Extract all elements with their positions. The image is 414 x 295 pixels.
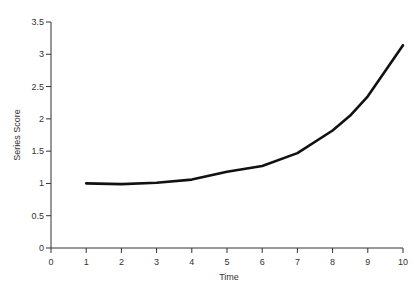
series-line [86, 45, 403, 184]
x-axis-title: Time [219, 272, 239, 282]
y-axis-title: Series Score [12, 109, 22, 161]
x-tick-label: 0 [48, 257, 53, 267]
x-tick-label: 7 [295, 257, 300, 267]
y-tick-label: 1.5 [31, 146, 44, 156]
y-tick-label: 3 [39, 49, 44, 59]
x-tick-label: 4 [189, 257, 194, 267]
x-tick-label: 3 [154, 257, 159, 267]
axes [51, 22, 403, 248]
y-tick-label: 0.5 [31, 211, 44, 221]
x-tick-label: 2 [119, 257, 124, 267]
y-tick-label: 3.5 [31, 17, 44, 27]
x-tick-label: 6 [260, 257, 265, 267]
y-tick-label: 1 [39, 178, 44, 188]
line-chart: 01234567891000.511.522.533.5 Time Series… [0, 0, 414, 295]
ticks: 01234567891000.511.522.533.5 [31, 17, 408, 267]
x-tick-label: 8 [330, 257, 335, 267]
x-tick-label: 9 [365, 257, 370, 267]
x-tick-label: 5 [224, 257, 229, 267]
y-tick-label: 0 [39, 243, 44, 253]
x-tick-label: 1 [84, 257, 89, 267]
y-tick-label: 2 [39, 114, 44, 124]
y-tick-label: 2.5 [31, 82, 44, 92]
x-tick-label: 10 [398, 257, 408, 267]
